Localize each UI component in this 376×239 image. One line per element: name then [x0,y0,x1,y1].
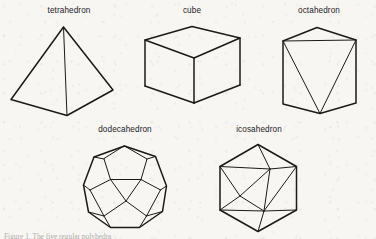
octahedron-inner-edge-left [283,41,320,114]
icosahedron-edge-a [220,167,270,170]
platonic-solids-illustration [0,0,376,239]
octahedron-upper-chord [283,40,356,41]
octahedron-inner-edge-right [320,40,356,114]
icosahedron-edge-k [220,210,264,211]
icosahedron-edge-i [264,167,297,212]
icosahedron-edge-f [220,167,240,197]
icosahedron-edge-d [240,169,270,196]
icosahedron-drawing [220,145,297,232]
tetrahedron-outline [11,27,113,116]
cube-drawing [145,27,240,104]
dodecahedron-drawing [84,146,167,228]
tetrahedron-drawing [11,27,113,116]
icosahedron-edge-g [220,196,240,210]
label-icosahedron: icosahedron [236,125,282,134]
label-dodecahedron: dodecahedron [98,125,152,134]
dodecahedron-edge-lower-right [147,190,161,216]
label-cube: cube [183,6,201,15]
icosahedron-outline [220,145,297,232]
dodecahedron-edge-center-left [111,180,127,202]
dodecahedron-spoke-upper-right [147,157,156,160]
icosahedron-edge-h [240,196,264,211]
tetrahedron-front-edge [64,27,68,116]
cube-bottom-left-edge [145,86,194,103]
label-tetrahedron: tetrahedron [48,6,91,15]
figure-page: tetrahedron cube octahedron dodecahedron… [0,0,376,239]
label-octahedron: octahedron [298,6,340,15]
dodecahedron-edge-bottom-left [104,201,126,216]
dodecahedron-edge-center-right [126,180,141,202]
figure-caption-cropped: Figure 1. The five regular polyhedra [4,232,204,239]
dodecahedron-edge-right-mid [141,180,161,191]
dodecahedron-edge-lower-left [90,190,104,216]
icosahedron-edge-c [270,167,297,170]
dodecahedron-edge-bottom-right [126,201,147,216]
octahedron-drawing [283,28,356,114]
dodecahedron-spoke-upper-left [94,157,104,159]
icosahedron-edge-j [264,210,297,211]
cube-bottom-right-edge [194,85,240,103]
dodecahedron-edge-left-mid [90,180,111,191]
cube-top-face [145,27,240,59]
